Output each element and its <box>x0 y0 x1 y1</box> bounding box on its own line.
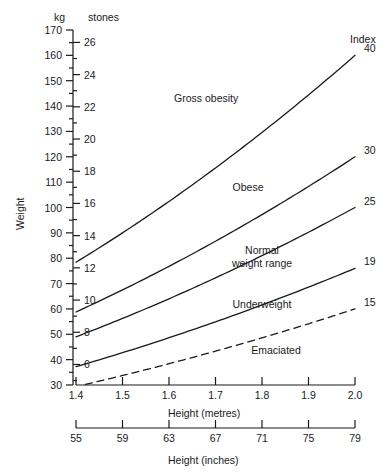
x-tick-label-inches: 75 <box>289 432 329 444</box>
index-label-25: 25 <box>364 195 376 207</box>
x-tick-label-metres: 1.5 <box>103 389 143 401</box>
kg-tick-label: 90 <box>28 227 62 239</box>
stones-tick-label: 10 <box>84 294 96 306</box>
index-label-30: 30 <box>364 144 376 156</box>
stones-tick-label: 18 <box>84 165 96 177</box>
x-tick-label-inches: 71 <box>242 432 282 444</box>
x-tick-label-inches: 55 <box>56 432 96 444</box>
kg-tick-label: 170 <box>28 24 62 36</box>
kg-tick-label: 60 <box>28 303 62 315</box>
kg-tick-label: 150 <box>28 75 62 87</box>
stones-tick-label: 16 <box>84 197 96 209</box>
stones-tick-label: 26 <box>84 36 96 48</box>
kg-tick-label: 120 <box>28 151 62 163</box>
bmi-curve-30 <box>76 157 355 312</box>
kg-tick-label: 130 <box>28 125 62 137</box>
region-label-underweight: Underweight <box>214 298 310 310</box>
region-label-obese: Obese <box>200 181 296 193</box>
x-tick-label-metres: 2.0 <box>335 389 375 401</box>
index-label-19: 19 <box>364 255 376 267</box>
region-label-normal-weight-range: Normalweight range <box>214 244 310 270</box>
kg-tick-label: 160 <box>28 49 62 61</box>
stones-tick-label: 12 <box>84 262 96 274</box>
stones-tick-label: 20 <box>84 133 96 145</box>
stones-tick-label: 8 <box>84 326 90 338</box>
bmi-curve-40 <box>76 55 355 262</box>
x-tick-label-metres: 1.7 <box>196 389 236 401</box>
bmi-curve-25 <box>76 208 355 337</box>
stones-tick-label: 24 <box>84 69 96 81</box>
bmi-chart: kg stones Weight Index Height (metres) H… <box>0 0 389 473</box>
kg-tick-label: 80 <box>28 252 62 264</box>
kg-tick-label: 70 <box>28 278 62 290</box>
x-tick-label-metres: 1.8 <box>242 389 282 401</box>
x-tick-label-inches: 67 <box>196 432 236 444</box>
x-tick-label-inches: 63 <box>149 432 189 444</box>
stones-tick-label: 22 <box>84 101 96 113</box>
region-label-gross-obesity: Gross obesity <box>158 92 254 104</box>
stones-tick-label: 14 <box>84 230 96 242</box>
kg-tick-label: 40 <box>28 354 62 366</box>
x-tick-label-metres: 1.6 <box>149 389 189 401</box>
kg-tick-label: 50 <box>28 328 62 340</box>
index-label-40: 40 <box>364 42 376 54</box>
index-label-15: 15 <box>364 296 376 308</box>
region-label-line: Normal <box>214 244 310 257</box>
kg-tick-label: 100 <box>28 202 62 214</box>
region-label-emaciated: Emaciated <box>228 344 324 356</box>
kg-tick-label: 110 <box>28 176 62 188</box>
region-label-line: weight range <box>214 257 310 270</box>
kg-tick-label: 140 <box>28 100 62 112</box>
x-tick-label-inches: 59 <box>103 432 143 444</box>
x-tick-label-inches: 79 <box>335 432 375 444</box>
stones-tick-label: 6 <box>84 358 90 370</box>
x-tick-label-metres: 1.9 <box>289 389 329 401</box>
x-tick-label-metres: 1.4 <box>56 389 96 401</box>
